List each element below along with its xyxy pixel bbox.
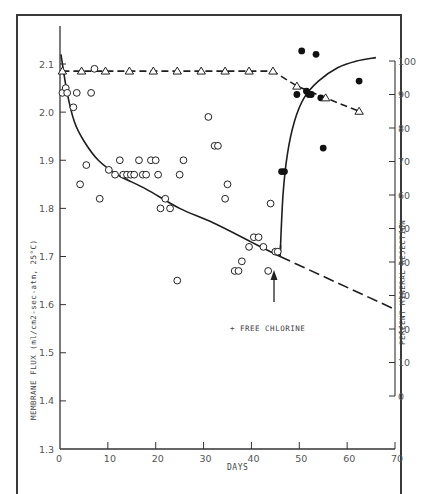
open-circle-point bbox=[64, 89, 71, 96]
open-circle-point bbox=[267, 200, 274, 207]
y-axis-title: MEMBRANE FLUX (ml/cm2-sec-atm, 25°C) bbox=[29, 239, 38, 420]
open-circle-point bbox=[224, 181, 231, 188]
open-circle-point bbox=[235, 268, 242, 275]
x-tick-label: 20 bbox=[152, 453, 164, 464]
open-circle-point bbox=[116, 157, 123, 164]
open-circle-point bbox=[215, 142, 222, 149]
axis-labels: 0102030405060701.31.41.51.61.71.81.92.02… bbox=[39, 56, 416, 465]
filled-circle-point bbox=[313, 51, 320, 58]
x-tick-label: 30 bbox=[200, 453, 212, 464]
filled-circle-point bbox=[320, 145, 327, 152]
y2-tick-label: 0 bbox=[398, 391, 404, 402]
y-tick-label: 1.9 bbox=[39, 155, 54, 166]
open-circle-point bbox=[260, 243, 267, 250]
open-triangle-point bbox=[269, 67, 277, 74]
open-circle-point bbox=[155, 171, 162, 178]
x-tick-label: 10 bbox=[104, 453, 116, 464]
open-circle-point bbox=[176, 171, 183, 178]
series-line bbox=[280, 257, 395, 310]
open-circle-point bbox=[246, 243, 253, 250]
y-tick-label: 1.7 bbox=[39, 251, 54, 262]
y-tick-label: 1.8 bbox=[39, 203, 54, 214]
x-tick-label: 0 bbox=[56, 453, 62, 464]
open-circle-point bbox=[274, 248, 281, 255]
open-circle-point bbox=[73, 89, 80, 96]
open-circle-point bbox=[255, 234, 262, 241]
open-circle-point bbox=[222, 195, 229, 202]
open-circle-point bbox=[70, 104, 77, 111]
open-circle-point bbox=[162, 195, 169, 202]
y2-tick-label: 100 bbox=[398, 56, 416, 67]
y-tick-label: 2.0 bbox=[39, 107, 54, 118]
y-tick-label: 1.5 bbox=[39, 347, 54, 358]
open-circle-point bbox=[136, 157, 143, 164]
open-circle-point bbox=[112, 171, 119, 178]
x-tick-label: 50 bbox=[295, 453, 307, 464]
open-circle-point bbox=[174, 277, 181, 284]
open-circle-point bbox=[205, 114, 212, 121]
open-circle-point bbox=[157, 205, 164, 212]
x-tick-label: 40 bbox=[247, 453, 259, 464]
annotation-arrow bbox=[271, 270, 278, 302]
axes bbox=[60, 26, 395, 449]
open-circle-point bbox=[180, 157, 187, 164]
y2-tick-label: 80 bbox=[398, 123, 410, 134]
y-tick-label: 1.6 bbox=[39, 299, 54, 310]
series-line bbox=[61, 54, 280, 256]
open-circle-point bbox=[96, 195, 103, 202]
open-circle-point bbox=[167, 205, 174, 212]
open-circle-point bbox=[91, 65, 98, 72]
y2-tick-label: 70 bbox=[398, 156, 410, 167]
filled-circle-point bbox=[308, 91, 315, 98]
y-tick-label: 2.1 bbox=[39, 59, 54, 70]
open-triangle-point bbox=[293, 82, 301, 89]
open-circle-point bbox=[105, 166, 112, 173]
annotation-free-chlorine: + FREE CHLORINE bbox=[230, 324, 305, 333]
open-circle-point bbox=[265, 268, 272, 275]
open-circle-point bbox=[238, 258, 245, 265]
y2-tick-label: 10 bbox=[398, 357, 410, 368]
filled-circle-point bbox=[281, 168, 288, 175]
open-circle-point bbox=[77, 181, 84, 188]
x-tick-label: 70 bbox=[391, 453, 403, 464]
filled-circle-point bbox=[293, 91, 300, 98]
open-circle-point bbox=[143, 171, 150, 178]
open-circle-point bbox=[152, 157, 159, 164]
y-tick-label: 1.3 bbox=[39, 444, 54, 455]
open-circle-point bbox=[83, 162, 90, 169]
y2-axis-title: PERCENT MINERAL REJECTION bbox=[398, 220, 407, 345]
open-circle-point bbox=[88, 89, 95, 96]
y2-tick-label: 60 bbox=[398, 190, 410, 201]
filled-circle-point bbox=[298, 48, 305, 55]
y-tick-label: 1.4 bbox=[39, 395, 54, 406]
open-circle-point bbox=[131, 171, 138, 178]
x-tick-label: 60 bbox=[343, 453, 355, 464]
filled-circle-point bbox=[356, 78, 363, 85]
y2-tick-label: 90 bbox=[398, 89, 410, 100]
series-line bbox=[62, 71, 359, 111]
x-axis-title: DAYS bbox=[227, 463, 248, 472]
